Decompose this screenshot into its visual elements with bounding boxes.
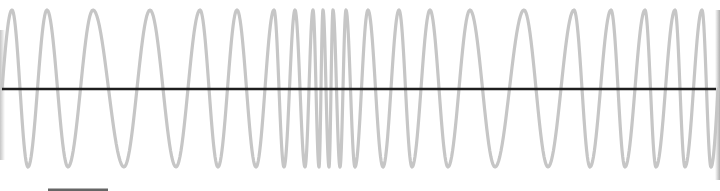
waveform-diagram [0,0,720,191]
